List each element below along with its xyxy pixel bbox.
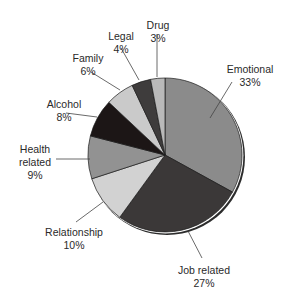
slice-label: Family6% xyxy=(73,52,104,78)
slice-name: Family xyxy=(73,52,104,65)
slice-name: related xyxy=(19,156,51,169)
leader-line xyxy=(76,202,103,222)
slice-name: Emotional xyxy=(227,63,274,76)
slice-name: Relationship xyxy=(45,226,103,239)
slice-label: Legal4% xyxy=(108,30,134,56)
slice-label: Job related27% xyxy=(178,264,230,290)
slice-label: Healthrelated9% xyxy=(19,143,51,182)
slice-name: Alcohol xyxy=(47,98,81,111)
slice-percent: 8% xyxy=(47,111,81,124)
slice-label: Relationship10% xyxy=(45,226,103,252)
slice-label: Drug3% xyxy=(147,19,170,45)
slice-percent: 3% xyxy=(147,32,170,45)
slice-percent: 9% xyxy=(19,169,51,182)
slice-percent: 27% xyxy=(178,277,230,290)
slice-percent: 4% xyxy=(108,43,134,56)
leader-line xyxy=(188,231,202,258)
pie-slices xyxy=(88,78,242,232)
slice-name: Job related xyxy=(178,264,230,277)
slice-label: Emotional33% xyxy=(227,63,274,89)
slice-percent: 10% xyxy=(45,239,103,252)
slice-percent: 6% xyxy=(73,65,104,78)
slice-name: Legal xyxy=(108,30,134,43)
slice-label: Alcohol8% xyxy=(47,98,81,124)
slice-percent: 33% xyxy=(227,76,274,89)
slice-name: Health xyxy=(19,143,51,156)
slice-name: Drug xyxy=(147,19,170,32)
